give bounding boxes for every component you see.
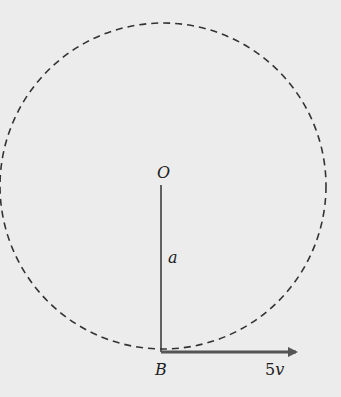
velocity-label: 5v — [265, 360, 284, 379]
radius-label-a: a — [168, 248, 178, 267]
dashed-circle-path — [0, 23, 326, 349]
center-label-O: O — [157, 163, 170, 182]
circular-motion-diagram: O a B 5v — [0, 0, 341, 397]
velocity-symbol: v — [275, 360, 284, 379]
point-label-B: B — [154, 360, 167, 379]
velocity-coefficient: 5 — [265, 360, 275, 379]
